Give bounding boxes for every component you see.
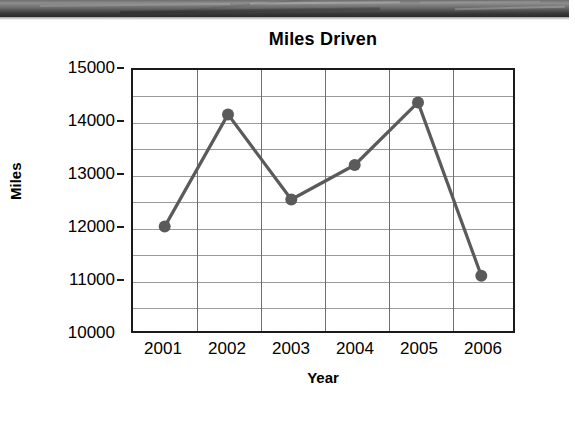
data-point-2006 — [475, 270, 487, 282]
x-axis-title: Year — [131, 369, 515, 386]
data-point-2005 — [412, 96, 424, 108]
x-tick-label: 2006 — [464, 339, 502, 359]
screenshot-root: Miles Driven 15000 14000 13000 12000 110… — [0, 0, 575, 422]
x-tick-label: 2004 — [336, 339, 374, 359]
plot-area — [131, 68, 515, 333]
y-tick-label: 12000 — [68, 217, 115, 237]
scan-streak — [250, 1, 400, 4]
x-tick-label: 2005 — [400, 339, 438, 359]
data-point-2001 — [159, 221, 171, 233]
scan-edge-artifact — [0, 0, 575, 17]
x-tick-label: 2003 — [272, 339, 310, 359]
chart-title: Miles Driven — [131, 29, 515, 50]
y-tick-label: 14000 — [68, 111, 115, 131]
data-point-2003 — [285, 194, 297, 206]
y-tick-mark — [117, 67, 124, 69]
plot-inner — [133, 70, 513, 331]
data-point-2002 — [222, 108, 234, 120]
x-tick-label: 2002 — [208, 339, 246, 359]
data-point-2004 — [349, 159, 361, 171]
y-tick-mark — [117, 120, 124, 122]
x-tick-label: 2001 — [144, 339, 182, 359]
data-series-miles-driven — [133, 70, 513, 331]
y-tick-label: 15000 — [68, 58, 115, 78]
scan-streak — [40, 3, 230, 7]
scan-streak — [455, 6, 565, 10]
y-tick-label: 11000 — [69, 270, 115, 290]
series-line — [165, 102, 482, 275]
y-axis: 15000 14000 13000 12000 11000 10000 — [0, 68, 124, 333]
y-tick-mark — [117, 226, 124, 228]
y-tick-label: 10000 — [68, 323, 115, 343]
y-axis-title: Miles — [7, 162, 24, 200]
y-tick-mark — [117, 173, 124, 175]
scan-streak — [120, 7, 380, 14]
y-tick-label: 13000 — [68, 164, 115, 184]
x-axis: 2001 2002 2003 2004 2005 2006 — [131, 339, 515, 365]
scan-streak — [420, 1, 540, 4]
y-tick-mark — [117, 279, 124, 281]
series-markers — [159, 96, 488, 281]
line-chart: Miles Driven 15000 14000 13000 12000 110… — [0, 17, 575, 422]
